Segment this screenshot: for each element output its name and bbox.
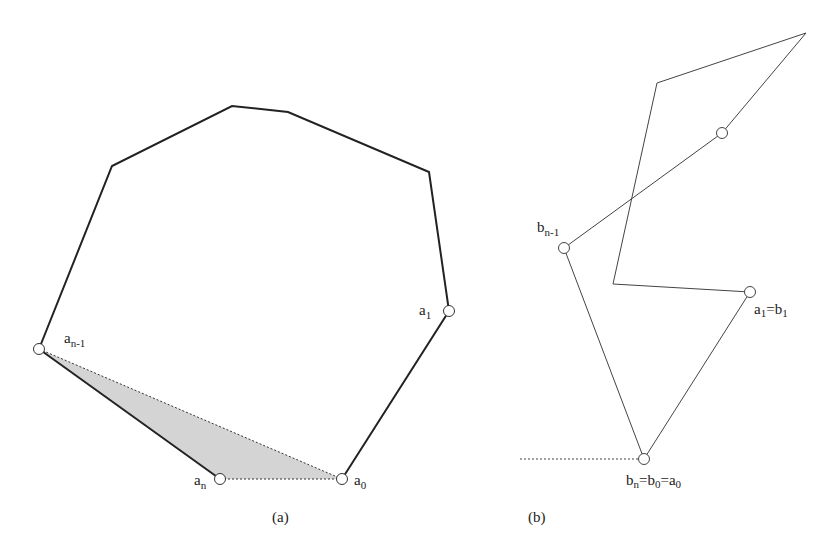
vertex-b0 <box>639 454 650 465</box>
dotted-edge-an1-a0 <box>39 349 342 479</box>
label-b-n-1: bn-1 <box>537 219 559 238</box>
label-bn-b0-a0: bn=b0=a0 <box>626 472 682 490</box>
label-a-1: a1 <box>419 302 431 321</box>
polygonal-chain <box>564 33 806 459</box>
vertex-a-n <box>215 474 226 485</box>
label-a-0: a0 <box>354 472 367 491</box>
caption-b: (b) <box>528 509 546 526</box>
vertex-a-0 <box>337 474 348 485</box>
vertex-a1-b1 <box>745 287 756 298</box>
figure-a: an-1 a1 an a0 (a) <box>34 106 455 526</box>
figure-b: bn-1 a1=b1 bn=b0=a0 (b) <box>520 33 806 526</box>
caption-a: (a) <box>272 509 289 526</box>
diagram-canvas: an-1 a1 an a0 (a) bn-1 a1=b1 bn=b0=a0 (b… <box>0 0 822 557</box>
vertex-a-n-1 <box>34 344 45 355</box>
vertex-a-1 <box>444 306 455 317</box>
label-a-n-1: an-1 <box>64 330 85 349</box>
label-a-n: an <box>194 472 207 491</box>
label-a1-eq-b1: a1=b1 <box>754 301 788 319</box>
vertex-mid <box>717 128 728 139</box>
convex-polygon-chain <box>39 106 449 479</box>
vertex-b-n-1 <box>559 243 570 254</box>
edge-an1-an <box>39 349 220 479</box>
